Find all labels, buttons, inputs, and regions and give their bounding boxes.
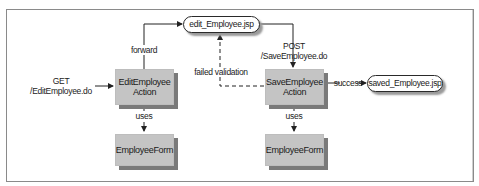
edit-action-line1: EditEmployee: [119, 77, 171, 87]
edit-uses-label: uses: [130, 111, 158, 121]
save-employee-form-node: EmployeeForm: [265, 134, 324, 166]
save-uses-label: uses: [280, 111, 308, 121]
edit-action-line2: Action: [119, 87, 171, 97]
save-action-line1: SaveEmployee: [266, 77, 323, 87]
post-path: /SaveEmployee.do: [258, 51, 330, 61]
edit-employee-jsp-node: edit_Employee.jsp: [183, 16, 260, 33]
get-method: GET: [28, 76, 94, 86]
failed-validation-label: failed validation: [188, 67, 254, 77]
forward-label: forward: [124, 45, 164, 55]
get-label: GET /EditEmployee.do: [28, 76, 94, 96]
post-method: POST: [258, 41, 330, 51]
save-employee-action-node: SaveEmployee Action: [265, 69, 324, 105]
saved-employee-jsp-node: saved_Employee.jsp: [367, 75, 443, 92]
edit-employee-action-node: EditEmployee Action: [115, 69, 174, 105]
edit-employee-form-node: EmployeeForm: [115, 134, 174, 166]
get-path: /EditEmployee.do: [28, 86, 94, 96]
success-label: success: [328, 78, 368, 88]
post-label: POST /SaveEmployee.do: [258, 41, 330, 61]
save-action-line2: Action: [266, 87, 323, 97]
